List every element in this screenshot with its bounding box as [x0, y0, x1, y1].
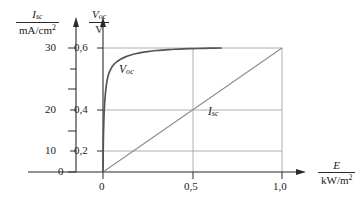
axis-label-Isc-quantity: Isc [16, 9, 59, 22]
axis-label-Isc: Isc mA/cm2 [16, 9, 59, 36]
tick-label-E-05: 0,5 [184, 181, 198, 192]
axis-label-Voc: Voc V [89, 9, 109, 35]
tick-label-Isc-30: 30 [45, 42, 56, 53]
tick-label-Isc-0: 0 [58, 166, 64, 177]
tick-label-Voc-06: 0,6 [74, 42, 88, 53]
axis-label-Voc-unit: V [89, 22, 109, 35]
tick-label-E-0: 0 [99, 181, 105, 192]
axis-label-E-unit: kW/m2 [318, 172, 355, 186]
tick-label-Isc-10: 10 [45, 145, 56, 156]
tick-label-Voc-04: 0,4 [74, 104, 88, 115]
tick-label-Voc-02: 0,2 [74, 145, 88, 156]
annotation-Isc: Isc [208, 106, 219, 119]
tick-label-Isc-20: 20 [45, 104, 56, 115]
axis-label-Isc-unit: mA/cm2 [16, 22, 59, 36]
axis-bottom-E [28, 169, 306, 179]
axis-label-E-quantity: E [318, 160, 355, 172]
figure-solar-cell-characteristics: Isc mA/cm2 Voc V E kW/m2 30 20 10 0 0,6 … [0, 0, 363, 207]
axis-label-Voc-quantity: Voc [89, 9, 109, 22]
axis-label-E: E kW/m2 [318, 160, 355, 186]
tick-label-E-10: 1,0 [273, 181, 287, 192]
annotation-Voc: Voc [119, 64, 134, 77]
